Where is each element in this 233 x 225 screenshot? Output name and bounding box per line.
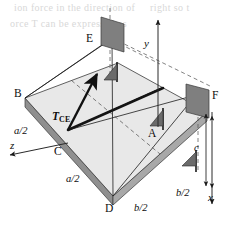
label-point-B: B — [14, 88, 22, 100]
label-dim-b-half-right: b/2 — [176, 188, 189, 199]
label-force-TCE: TCE — [52, 111, 71, 123]
force-symbol: T — [52, 110, 59, 122]
plate-body — [25, 63, 207, 205]
label-point-D: D — [105, 203, 113, 215]
label-dim-b-half-left: b/2 — [134, 203, 147, 214]
label-axis-x: x — [208, 192, 213, 203]
label-axis-z: z — [10, 140, 14, 151]
label-dim-c: c — [194, 143, 199, 154]
label-dim-a-half-front: a/2 — [66, 174, 79, 185]
label-point-A: A — [148, 128, 156, 140]
plate-diagram-svg — [0, 0, 233, 225]
label-point-F: F — [212, 90, 218, 102]
label-dim-a-half-left: a/2 — [14, 126, 27, 137]
force-subscript: CE — [59, 115, 71, 124]
dimension-line-c — [206, 114, 212, 188]
anchor-plate-F — [186, 84, 209, 118]
label-point-C: C — [54, 146, 62, 158]
label-axis-y: y — [144, 38, 149, 49]
figure-root: ion force in the direction of orce T can… — [0, 0, 233, 225]
anchor-plate-E — [101, 17, 124, 52]
label-point-E: E — [86, 33, 93, 45]
